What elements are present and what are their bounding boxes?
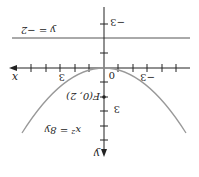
y-axis-arrow-icon <box>101 149 107 157</box>
parabola-equation-label: x² = 8y <box>44 125 81 136</box>
focus-label: F(0, 2) <box>66 91 101 102</box>
diagram-canvas: x y 0 3 −3 3 −3 F(0, 2) x² = 8y y = −2 <box>0 0 199 177</box>
origin-label: 0 <box>109 70 115 81</box>
y-tick-label-neg3: −3 <box>110 17 125 28</box>
y-axis-label: y <box>93 147 101 160</box>
x-axis-arrow-icon <box>9 65 17 71</box>
x-tick-label-pos3: 3 <box>59 72 65 83</box>
y-tick-label-pos3: 3 <box>114 104 120 115</box>
parabola-diagram: x y 0 3 −3 3 −3 F(0, 2) x² = 8y y = −2 <box>0 0 199 177</box>
x-tick-label-neg3: −3 <box>140 72 155 83</box>
focus-point <box>102 95 106 99</box>
directrix-label: y = −2 <box>21 25 57 36</box>
x-axis-label: x <box>11 71 18 84</box>
